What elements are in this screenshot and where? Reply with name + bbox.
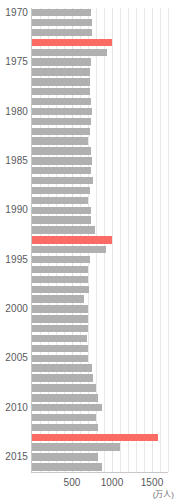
bar-row (32, 433, 168, 443)
y-axis-tick-labels: 1970197519801985199019952000200520102015 (0, 0, 28, 504)
bar (32, 355, 88, 362)
bar-highlighted (32, 236, 112, 243)
bar (32, 453, 98, 460)
y-tick-label: 1990 (0, 205, 28, 215)
bar (32, 345, 88, 352)
bar (32, 305, 88, 312)
bar-row (32, 245, 168, 255)
bar-row (32, 354, 168, 364)
bar (32, 98, 91, 105)
bar (32, 128, 90, 135)
bar (32, 463, 102, 470)
bar-row (32, 314, 168, 324)
bar-row (32, 18, 168, 28)
bar (32, 177, 93, 184)
bar (32, 295, 84, 302)
bar-row (32, 77, 168, 87)
plot-area (32, 8, 168, 472)
bar-row (32, 304, 168, 314)
bar (32, 226, 95, 233)
bar (32, 315, 88, 322)
bar-row (32, 117, 168, 127)
bar (32, 167, 91, 174)
bar (32, 147, 91, 154)
bar (32, 384, 96, 391)
bar-row (32, 225, 168, 235)
bar-highlighted (32, 39, 112, 46)
bar (32, 78, 90, 85)
y-tick-label: 2015 (0, 452, 28, 462)
bar (32, 374, 93, 381)
bar-row (32, 235, 168, 245)
bar-row (32, 8, 168, 18)
y-tick-label: 1980 (0, 107, 28, 117)
bar-row (32, 146, 168, 156)
bar (32, 276, 88, 283)
bar-row (32, 334, 168, 344)
bar-row (32, 275, 168, 285)
bar (32, 49, 107, 56)
bar (32, 9, 91, 16)
bar (32, 19, 92, 26)
bar (32, 404, 102, 411)
x-tick-label: 500 (55, 478, 89, 488)
x-axis-line (31, 472, 168, 473)
gridline-minor (168, 8, 169, 472)
bar (32, 246, 106, 253)
bar (32, 207, 91, 214)
bar-row (32, 423, 168, 433)
bar (32, 266, 88, 273)
bar-row (32, 47, 168, 57)
bar-row (32, 156, 168, 166)
bar-row (32, 196, 168, 206)
bar-row (32, 442, 168, 452)
bar-row (32, 373, 168, 383)
bar-row (32, 403, 168, 413)
bar (32, 29, 92, 36)
bar (32, 424, 98, 431)
bar-row (32, 107, 168, 117)
bar-row (32, 462, 168, 472)
bar-highlighted (32, 434, 158, 441)
bar-row (32, 324, 168, 334)
bar-row (32, 363, 168, 373)
bar-row (32, 255, 168, 265)
y-tick-label: 2005 (0, 353, 28, 363)
bar-row (32, 166, 168, 176)
bar-row (32, 344, 168, 354)
bar-row (32, 413, 168, 423)
bar-row (32, 265, 168, 275)
y-tick-label: 1995 (0, 255, 28, 265)
bar-row (32, 87, 168, 97)
bar (32, 58, 91, 65)
bar-row (32, 97, 168, 107)
bar-row (32, 126, 168, 136)
bar (32, 256, 90, 263)
bar (32, 157, 92, 164)
bar-row (32, 294, 168, 304)
bar-row (32, 136, 168, 146)
bar (32, 335, 87, 342)
bar-row (32, 57, 168, 67)
bar (32, 187, 90, 194)
bar-row (32, 186, 168, 196)
bar-row (32, 38, 168, 48)
bar (32, 137, 88, 144)
bar (32, 443, 120, 450)
bar-row (32, 383, 168, 393)
bar (32, 216, 91, 223)
bar-row (32, 205, 168, 215)
bar-row (32, 28, 168, 38)
bar-row (32, 215, 168, 225)
bar (32, 118, 91, 125)
horizontal-bar-chart: 1970197519801985199019952000200520102015… (0, 0, 176, 504)
y-tick-label: 2010 (0, 403, 28, 413)
bar-row (32, 393, 168, 403)
bar (32, 286, 89, 293)
bar (32, 88, 90, 95)
bar-row (32, 67, 168, 77)
y-tick-label: 1970 (0, 8, 28, 18)
bar (32, 325, 88, 332)
bar (32, 108, 92, 115)
x-axis-unit-label: (万人) (153, 491, 174, 499)
